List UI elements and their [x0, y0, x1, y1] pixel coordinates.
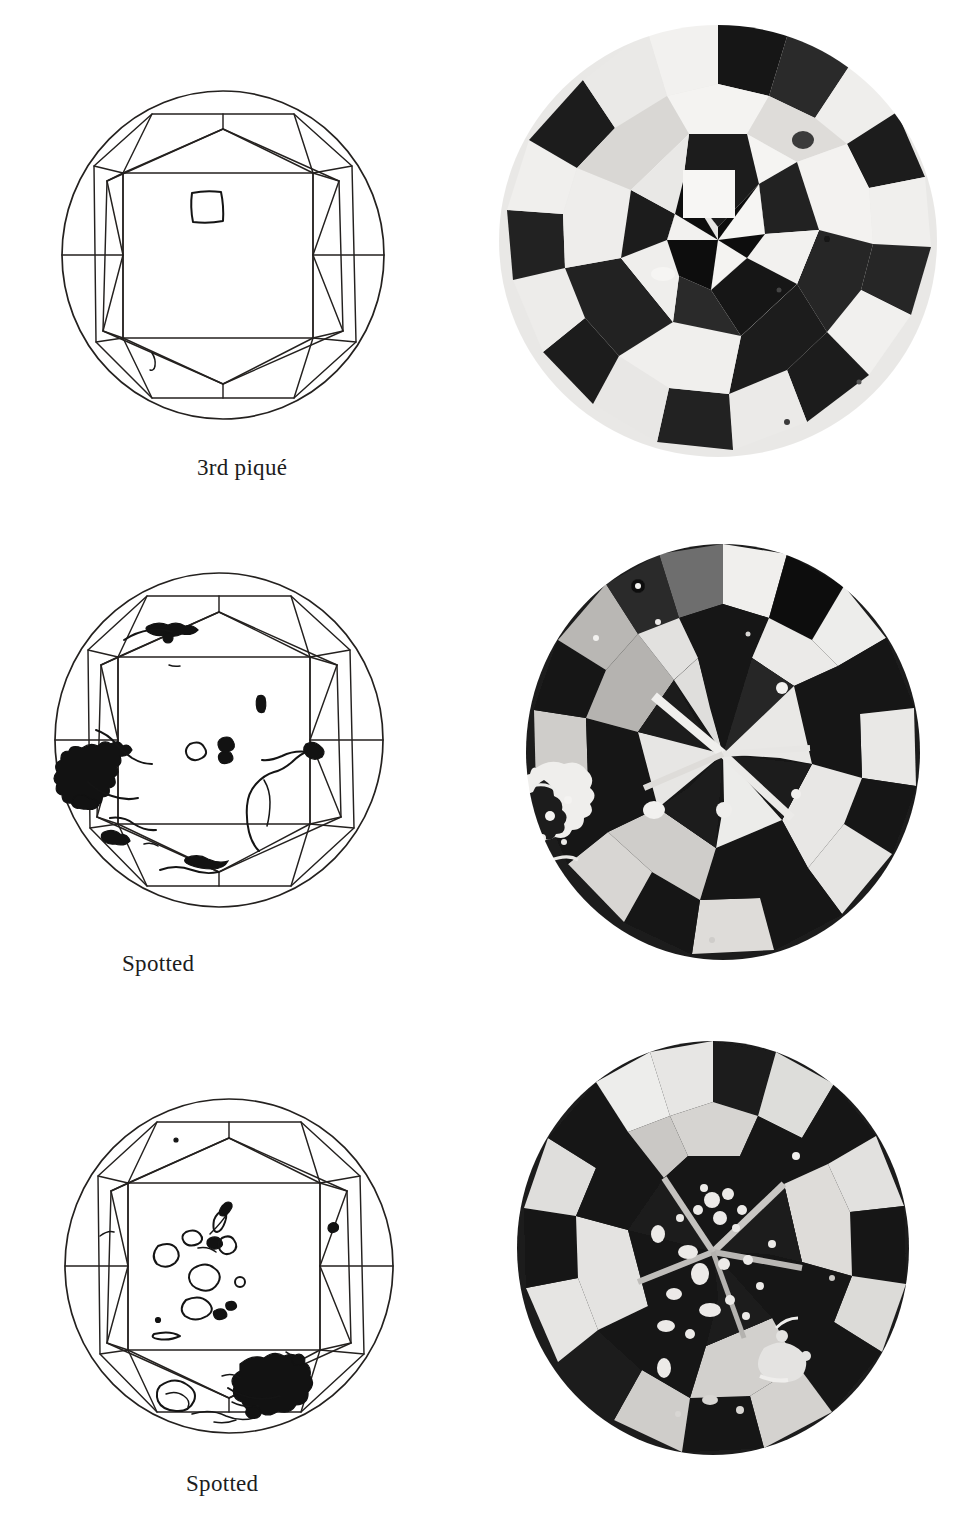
diamond-photo-svg-3 [514, 1038, 912, 1458]
clarity-plot-2 [52, 570, 388, 910]
diamond-photo-svg-1 [497, 22, 940, 460]
round-brilliant-plot-svg-1 [60, 88, 390, 422]
plate-caption-1: 3rd piqué [197, 455, 287, 481]
round-brilliant-plot-svg-2 [52, 570, 388, 910]
diamond-photo-1 [497, 22, 940, 460]
plate-caption-3: Spotted [186, 1471, 258, 1497]
round-brilliant-plot-svg-3 [62, 1096, 398, 1436]
plate-row-1: 3rd piqué [0, 0, 977, 508]
plate-caption-2: Spotted [122, 951, 194, 977]
diamond-photo-svg-2 [524, 542, 922, 962]
diamond-photo-3 [514, 1038, 912, 1458]
diamond-photo-2 [524, 542, 922, 962]
inclusion-spot-upper-middle [256, 695, 266, 712]
clarity-plot-3 [62, 1096, 398, 1436]
clarity-plot-1 [60, 88, 390, 422]
book-page: 3rd piqué [0, 0, 977, 1522]
plate-row-3: Spotted [0, 1016, 977, 1522]
plate-row-2: Spotted [0, 508, 977, 1016]
